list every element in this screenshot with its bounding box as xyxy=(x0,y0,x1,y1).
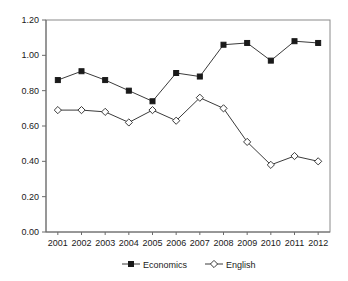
x-tick-label: 2011 xyxy=(285,238,304,248)
y-tick-label: 0.20 xyxy=(21,192,39,202)
chart-figure: 0.000.200.400.600.801.001.20 20012002200… xyxy=(0,0,348,281)
data-point-economics xyxy=(245,40,250,45)
x-tick-label: 2002 xyxy=(71,238,91,248)
data-point-economics xyxy=(55,78,60,83)
x-tick-label: 2004 xyxy=(119,238,139,248)
x-tick-label: 2012 xyxy=(308,238,328,248)
y-tick-label: 1.20 xyxy=(21,15,39,25)
x-tick-label: 2008 xyxy=(213,238,233,248)
data-point-economics xyxy=(126,88,131,93)
x-tick-label: 2005 xyxy=(142,238,162,248)
x-tick-label: 2010 xyxy=(261,238,281,248)
data-point-economics xyxy=(79,69,84,74)
legend-marker-economics xyxy=(129,262,134,267)
legend-label-economics: Economics xyxy=(143,260,188,270)
x-tick-label: 2007 xyxy=(190,238,210,248)
y-tick-label: 0.80 xyxy=(21,86,39,96)
y-tick-label: 0.40 xyxy=(21,156,39,166)
x-tick-label: 2006 xyxy=(166,238,186,248)
data-point-economics xyxy=(316,40,321,45)
data-point-economics xyxy=(150,99,155,104)
data-point-economics xyxy=(103,78,108,83)
x-tick-label: 2009 xyxy=(237,238,257,248)
x-tick-label: 2001 xyxy=(48,238,68,248)
y-tick-label: 0.00 xyxy=(21,227,39,237)
data-point-economics xyxy=(174,71,179,76)
line-chart: 0.000.200.400.600.801.001.20 20012002200… xyxy=(0,0,348,281)
legend-label-english: English xyxy=(226,260,256,270)
x-tick-label: 2003 xyxy=(95,238,115,248)
data-point-economics xyxy=(268,58,273,63)
y-tick-label: 1.00 xyxy=(21,50,39,60)
data-point-economics xyxy=(292,39,297,44)
y-tick-label: 0.60 xyxy=(21,121,39,131)
data-point-economics xyxy=(221,42,226,47)
data-point-economics xyxy=(197,74,202,79)
